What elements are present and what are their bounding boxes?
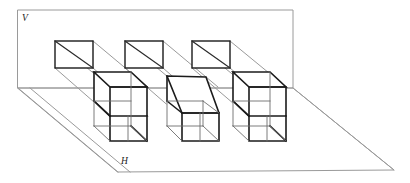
cube-right-body-mask xyxy=(233,72,286,141)
projection-drawing-canvas: V H xyxy=(0,0,410,183)
projection-rect-group xyxy=(55,41,230,68)
cube-left-body-mask xyxy=(94,72,147,141)
guide-h-right-edge xyxy=(293,88,394,170)
label-vertical-plane-V: V xyxy=(22,13,29,23)
technical-drawing-figure: V H xyxy=(0,0,410,183)
label-horizontal-plane-H: H xyxy=(120,156,129,166)
solid-cube-left xyxy=(94,72,147,141)
solid-cube-right xyxy=(233,72,286,141)
wedge-middle-body-mask xyxy=(166,76,219,141)
solid-wedge-middle xyxy=(166,76,219,141)
